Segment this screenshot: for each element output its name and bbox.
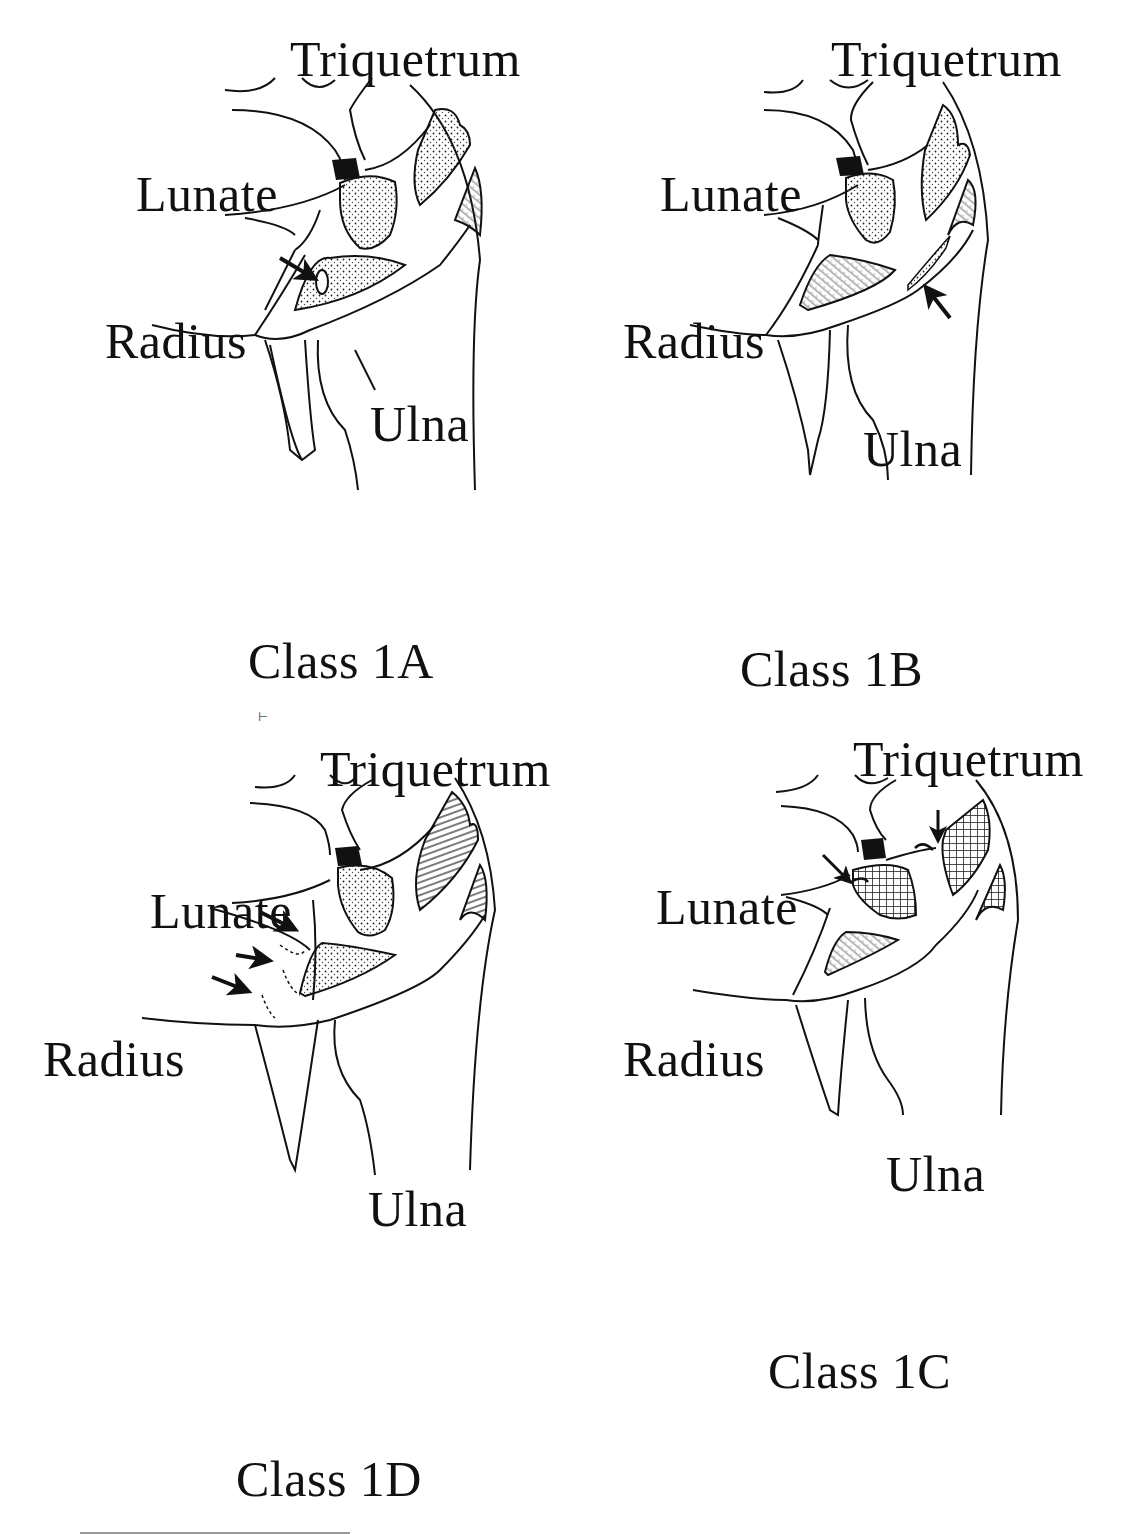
caption-class-1d: Class 1D	[236, 1450, 422, 1508]
panel-class-1b: Triquetrum Lunate Radius Ulna Class 1B	[568, 0, 1136, 720]
label-lunate: Lunate	[656, 878, 798, 936]
label-lunate: Lunate	[136, 165, 278, 223]
wrist-diagram-1a	[0, 0, 568, 700]
caption-class-1c: Class 1C	[768, 1342, 951, 1400]
label-triquetrum: Triquetrum	[853, 730, 1084, 788]
label-triquetrum: Triquetrum	[290, 30, 521, 88]
label-lunate: Lunate	[150, 882, 292, 940]
label-ulna: Ulna	[368, 1180, 467, 1238]
scale-tick-mark: ⊢	[258, 710, 268, 725]
label-radius: Radius	[105, 312, 247, 370]
caption-class-1b: Class 1B	[740, 640, 923, 698]
wrist-diagram-1d	[0, 700, 568, 1534]
panel-class-1d: ⊢ Triquetrum Lunate Radius Ulna Class 1D	[0, 700, 568, 1534]
panel-class-1c: Triquetrum Lunate Radius Ulna Class 1C	[568, 700, 1136, 1534]
label-ulna: Ulna	[370, 395, 469, 453]
label-radius: Radius	[43, 1030, 185, 1088]
label-ulna: Ulna	[863, 420, 962, 478]
label-triquetrum: Triquetrum	[831, 30, 1062, 88]
panel-class-1a: Triquetrum Lunate Radius Ulna Class 1A	[0, 0, 568, 700]
label-ulna: Ulna	[886, 1145, 985, 1203]
label-radius: Radius	[623, 1030, 765, 1088]
label-radius: Radius	[623, 312, 765, 370]
caption-class-1a: Class 1A	[248, 632, 434, 690]
wrist-diagram-1c	[568, 700, 1136, 1534]
label-triquetrum: Triquetrum	[320, 740, 551, 798]
label-lunate: Lunate	[660, 165, 802, 223]
